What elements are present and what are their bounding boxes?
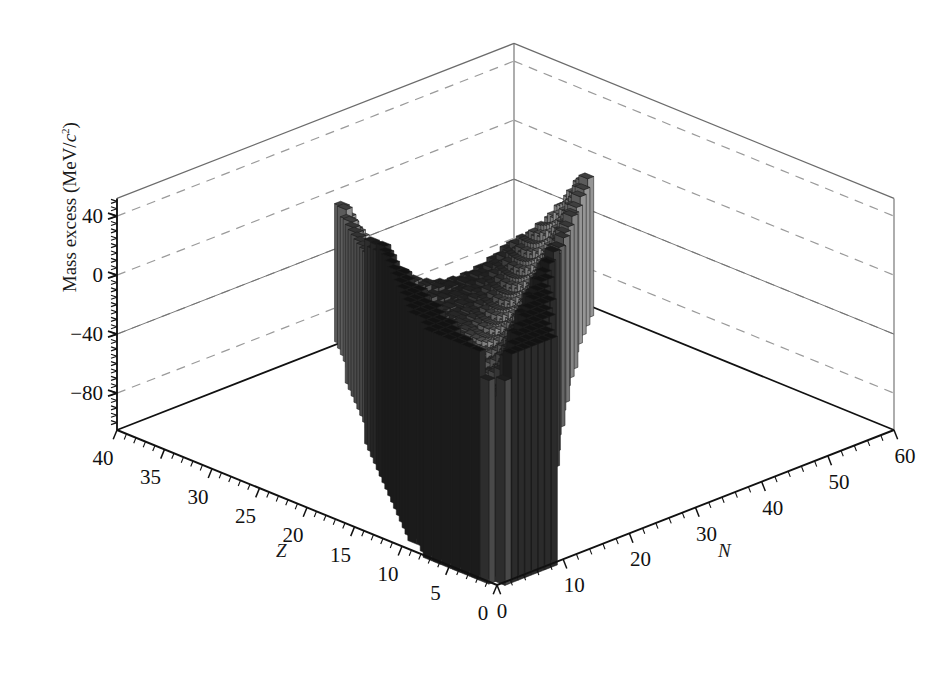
z-axis-label: Z	[276, 540, 287, 562]
bar-face-right	[518, 349, 524, 580]
bar-face-left	[452, 340, 461, 572]
n-tick-label: 30	[696, 522, 717, 546]
z-tick-label: 30	[187, 485, 208, 509]
z-axis-title: Mass excess (MeV/c2)	[59, 77, 81, 337]
bar-face-left	[471, 348, 480, 580]
z-tick-label: 15	[330, 543, 351, 567]
bar-face-left	[496, 377, 505, 585]
z-tick-label: 25	[235, 504, 256, 528]
bar-face-right	[538, 341, 544, 572]
n-axis-label: N	[718, 540, 731, 562]
n-tick-label: 40	[762, 496, 783, 520]
bar-face-right	[545, 339, 551, 570]
n-tick-label: 0	[497, 599, 508, 623]
mass-excess-tick-label: −80	[70, 381, 103, 405]
n-tick-label: 20	[630, 547, 651, 571]
exponent-2: 2	[59, 128, 71, 134]
bar-face-left	[433, 333, 442, 565]
z-tick-label: 5	[430, 581, 441, 605]
n-tick-label: 10	[564, 573, 585, 597]
bar-face-right	[525, 347, 531, 578]
z-tick-label: 35	[140, 465, 161, 489]
bar-face-right	[489, 378, 495, 584]
z-tick-label: 40	[92, 446, 113, 470]
bar-face-left	[442, 336, 451, 568]
bar-face-right	[512, 352, 518, 583]
z-tick-label: 0	[478, 601, 489, 625]
mass-excess-tick-label: 40	[82, 204, 103, 228]
z-tick-label: 10	[377, 562, 398, 586]
bar-face-right	[505, 378, 511, 585]
n-tick-label: 50	[828, 470, 849, 494]
mass-excess-tick-label: 0	[93, 263, 104, 287]
c-symbol: c	[59, 134, 80, 142]
bar-face-right	[551, 336, 557, 567]
bar-face-left	[423, 329, 432, 561]
figure-canvas: 400−40−8005101520253035400102030405060 M…	[0, 0, 948, 676]
bar-face-left	[480, 377, 489, 584]
mass-excess-3d-bar-chart: 400−40−8005101520253035400102030405060	[0, 0, 948, 676]
bar-face-right	[531, 344, 537, 575]
n-tick-label: 60	[895, 444, 916, 468]
bar-face-left	[408, 312, 417, 544]
bar-face-left	[461, 344, 470, 576]
